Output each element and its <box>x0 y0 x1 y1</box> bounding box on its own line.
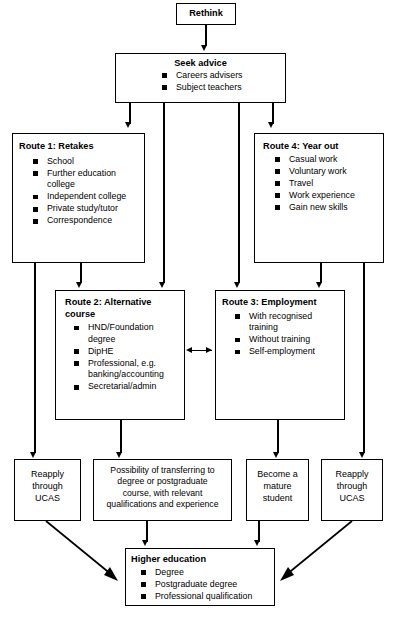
list-item: Correspondence <box>29 215 140 227</box>
node-route3-title: Route 3: Employment <box>222 297 340 309</box>
connector-route1-to-reapply-left <box>34 263 36 453</box>
list-item: Independent college <box>29 191 140 203</box>
arrowhead-mature <box>273 452 279 458</box>
connector-seek-advice-to-route4 <box>272 103 274 124</box>
node-route1-list: School Further education college Indepen… <box>29 156 140 228</box>
list-item: With recognised training <box>231 311 340 334</box>
node-reapply-left-label: Reapply through UCAS <box>17 469 78 504</box>
node-seek-advice: Seek advice Careers advisers Subject tea… <box>115 53 286 103</box>
list-item: Degree <box>137 567 270 579</box>
node-route4-title: Route 4: Year out <box>263 141 379 153</box>
node-seek-advice-title: Seek advice <box>120 58 281 70</box>
arrowhead-seek-advice <box>201 45 207 51</box>
node-route2-title: Route 2: Alternative course <box>61 297 180 320</box>
arrowhead-route2-side <box>186 347 192 353</box>
list-item: Postgraduate degree <box>137 579 270 591</box>
node-rethink: Rethink <box>176 3 236 25</box>
arrowhead-higher-education-from-mature <box>254 540 260 546</box>
arrowhead-reapply-left <box>30 452 36 458</box>
list-item: Careers advisers <box>158 70 281 82</box>
node-seek-advice-list: Careers advisers Subject teachers <box>158 70 281 94</box>
node-route3-list: With recognised training Without trainin… <box>231 311 340 358</box>
node-route2: Route 2: Alternative course HND/Foundati… <box>55 290 185 420</box>
arrowhead-route3-from-top <box>234 282 240 288</box>
node-route2-list: HND/Foundation degree DipHE Professional… <box>70 322 180 393</box>
node-route4: Route 4: Year out Casual work Voluntary … <box>254 133 384 263</box>
connector-route4-to-reapply-right <box>363 263 365 453</box>
arrowhead-route4 <box>268 122 274 128</box>
connector-route1-to-route2 <box>80 263 82 283</box>
node-route1-title: Route 1: Retakes <box>19 141 140 153</box>
connector-route3-to-mature <box>277 420 279 453</box>
arrowhead-route2-from-route1 <box>76 282 82 288</box>
list-item: Further education college <box>29 168 140 191</box>
node-mature-student-label: Become a mature student <box>249 469 306 504</box>
arrowhead-higher-education-from-transfer <box>142 540 148 546</box>
node-higher-education: Higher education Degree Postgraduate deg… <box>125 548 275 606</box>
flowchart-canvas: Rethink Seek advice Careers advisers Sub… <box>0 0 396 620</box>
connector-reapply-left-to-higher-education <box>0 505 130 595</box>
connector-reapply-right-to-higher-education <box>266 505 396 595</box>
connector-rethink-to-seek-advice <box>205 25 207 46</box>
list-item: Professional, e.g. banking/accounting <box>70 358 180 381</box>
arrowhead-route3-from-route4 <box>316 282 322 288</box>
node-route3: Route 3: Employment With recognised trai… <box>215 290 345 420</box>
list-item: School <box>29 156 140 168</box>
connector-route2-to-transfer <box>120 420 122 453</box>
node-higher-education-title: Higher education <box>131 554 270 566</box>
list-item: Voluntary work <box>271 166 379 178</box>
arrowhead-route2-from-top <box>159 282 165 288</box>
list-item: Subject teachers <box>158 82 281 94</box>
connector-seek-advice-to-route1 <box>129 103 131 124</box>
list-item: Self-employment <box>231 346 340 358</box>
list-item: Travel <box>271 178 379 190</box>
connector-mature-to-higher-education <box>258 521 260 542</box>
arrowhead-route1 <box>125 122 131 128</box>
list-item: Private study/tutor <box>29 203 140 215</box>
list-item: Without training <box>231 334 340 346</box>
node-transfer-label: Possibility of transferring to degree or… <box>97 465 228 510</box>
node-reapply-right-label: Reapply through UCAS <box>324 469 380 504</box>
arrowhead-reapply-right <box>359 452 365 458</box>
list-item: Work experience <box>271 190 379 202</box>
node-higher-education-list: Degree Postgraduate degree Professional … <box>137 567 270 603</box>
connector-route4-to-route3 <box>320 263 322 283</box>
connector-seek-advice-to-route2 <box>163 103 165 283</box>
list-item: Secretarial/admin <box>70 381 180 393</box>
list-item: Professional qualification <box>137 591 270 603</box>
list-item: HND/Foundation degree <box>70 322 180 345</box>
connector-transfer-to-higher-education <box>146 521 148 542</box>
arrowhead-transfer <box>116 452 122 458</box>
list-item: Casual work <box>271 154 379 166</box>
list-item: DipHE <box>70 346 180 358</box>
arrowhead-route3-side <box>206 347 212 353</box>
node-route4-list: Casual work Voluntary work Travel Work e… <box>271 154 379 214</box>
connector-seek-advice-to-route3 <box>238 103 240 283</box>
list-item: Gain new skills <box>271 202 379 214</box>
node-rethink-label: Rethink <box>179 8 233 20</box>
node-route1: Route 1: Retakes School Further educatio… <box>12 133 145 263</box>
